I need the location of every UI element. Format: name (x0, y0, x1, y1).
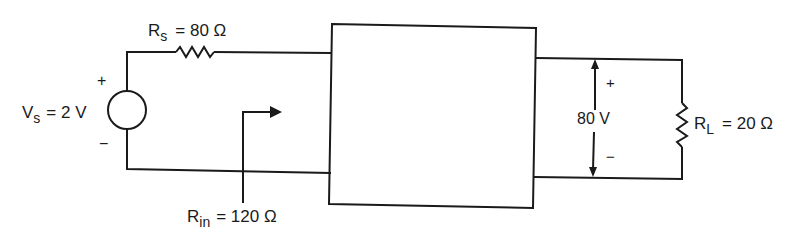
wire-source-top (127, 52, 176, 91)
wire-source-bottom (127, 129, 331, 173)
wire-resistor-to-box (214, 52, 331, 53)
source-plus-sign: + (97, 72, 106, 89)
source-resistor-label: Rs= 80 Ω (148, 21, 226, 44)
output-minus-sign: − (606, 148, 615, 165)
output-plus-sign: + (606, 74, 615, 91)
circuit-diagram: Rs= 80 Ω Vs= 2 V + − Rin= 120 Ω 80 V + −… (0, 0, 804, 235)
amplifier-box (329, 24, 536, 208)
load-resistor-icon (677, 103, 687, 147)
input-resistance-label: Rin= 120 Ω (187, 207, 277, 230)
source-resistor-icon (176, 47, 214, 57)
output-voltage-arrow-down (593, 132, 594, 170)
input-resistance-arrow-icon (243, 112, 272, 203)
output-voltage-label: 80 V (577, 110, 610, 127)
source-voltage-label: Vs= 2 V (22, 103, 87, 126)
load-resistor-label: RL= 20 Ω (694, 114, 773, 137)
source-minus-sign: − (99, 135, 108, 152)
voltage-source-icon (108, 91, 146, 129)
input-circuit (108, 47, 331, 203)
